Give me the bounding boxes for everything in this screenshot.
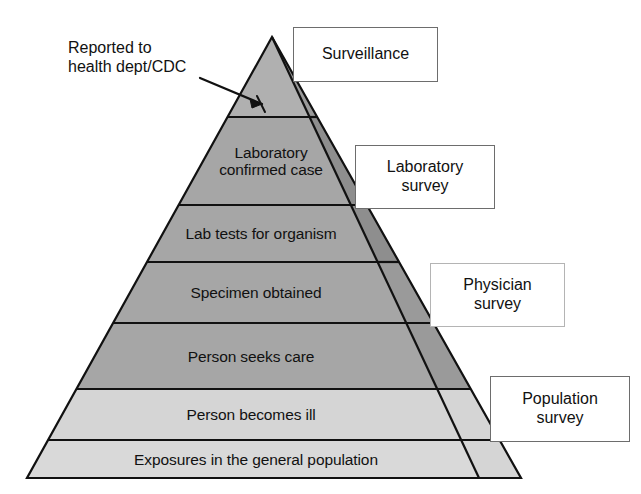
figure-canvas: Reported to health dept/CDC Laboratory c…: [0, 0, 641, 494]
callout-box-surveillance[interactable]: Surveillance: [293, 27, 438, 82]
pyramid-layer-specimen-obtained: [113, 262, 406, 323]
callout-box-population-survey[interactable]: Population survey: [490, 376, 630, 442]
callout-box-laboratory-survey[interactable]: Laboratory survey: [355, 145, 495, 209]
callout-box-physician-survey[interactable]: Physician survey: [430, 263, 565, 327]
pyramid-layer-lab-tests-for-organism: [147, 205, 378, 262]
annotation-reported-to-health-dept: Reported to health dept/CDC: [68, 38, 218, 76]
pyramid-layer-person-becomes-ill: [48, 389, 461, 440]
pyramid-layer-exposures-in-general-population: [27, 440, 479, 478]
pyramid-layer-person-seeks-care: [76, 323, 437, 389]
